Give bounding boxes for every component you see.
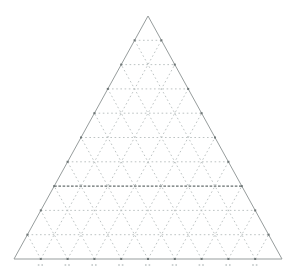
ternary-plot-figure xyxy=(0,0,296,277)
edge-tick-left-6 xyxy=(67,161,69,163)
edge-tick-left-9 xyxy=(26,234,28,236)
edge-tick-right-3 xyxy=(187,88,189,90)
base-tick-label-mark-9 xyxy=(252,264,254,266)
edge-tick-right-1 xyxy=(160,39,162,41)
edge-tick-bottom-2 xyxy=(67,258,69,260)
edge-tick-right-6 xyxy=(227,161,229,163)
edge-tick-left-4 xyxy=(93,112,95,114)
base-tick-label-mark-3b xyxy=(95,264,97,266)
edge-tick-bottom-3 xyxy=(93,258,95,260)
edge-tick-left-7 xyxy=(53,185,55,187)
base-tick-label-mark-8 xyxy=(225,264,227,266)
grid-line-left-parallel-7 xyxy=(202,186,242,259)
edge-tick-left-3 xyxy=(107,88,109,90)
base-tick-label-mark-5 xyxy=(145,264,147,266)
grid-line-right-parallel-9 xyxy=(135,40,256,259)
edge-tick-left-2 xyxy=(120,64,122,66)
edge-tick-bottom-1 xyxy=(40,258,42,260)
edge-tick-bottom-9 xyxy=(254,258,256,260)
grid-line-right-parallel-7 xyxy=(108,89,202,259)
grid-line-right-parallel-3 xyxy=(54,186,94,259)
grid-line-right-parallel-1 xyxy=(27,235,40,259)
grid-line-right-parallel-5 xyxy=(81,138,148,260)
edge-tick-right-8 xyxy=(254,209,256,211)
base-tick-label-mark-5b xyxy=(149,264,151,266)
edge-tick-bottom-6 xyxy=(174,258,176,260)
base-tick-label-mark-2 xyxy=(65,264,67,266)
edge-tick-right-5 xyxy=(214,137,216,139)
edge-tick-bottom-7 xyxy=(201,258,203,260)
edge-tick-right-2 xyxy=(174,64,176,66)
edge-tick-right-4 xyxy=(201,112,203,114)
grid-line-left-parallel-9 xyxy=(255,235,268,259)
triangle-outline xyxy=(14,16,282,259)
base-tick-label-mark-7 xyxy=(199,264,201,266)
base-tick-label-mark-8b xyxy=(229,264,231,266)
base-tick-label-mark-9b xyxy=(256,264,258,266)
base-tick-label-mark-7b xyxy=(202,264,204,266)
edge-tick-bottom-4 xyxy=(120,258,122,260)
edge-tick-left-5 xyxy=(80,137,82,139)
edge-tick-right-9 xyxy=(268,234,270,236)
grid-line-left-parallel-5 xyxy=(148,138,215,260)
ternary-plot xyxy=(0,0,296,277)
base-tick-label-mark-6b xyxy=(175,264,177,266)
edge-tick-right-7 xyxy=(241,185,243,187)
edge-tick-left-1 xyxy=(134,39,136,41)
edge-tick-bottom-5 xyxy=(147,258,149,260)
base-tick-label-mark-4 xyxy=(118,264,120,266)
edge-tick-bottom-8 xyxy=(227,258,229,260)
base-tick-label-mark-4b xyxy=(122,264,124,266)
base-tick-label-mark-1b xyxy=(41,264,43,266)
grid-line-left-parallel-1 xyxy=(41,40,162,259)
base-tick-label-mark-3 xyxy=(91,264,93,266)
base-tick-label-mark-1 xyxy=(38,264,40,266)
grid-line-left-parallel-3 xyxy=(94,89,188,259)
base-tick-label-mark-6 xyxy=(172,264,174,266)
base-tick-label-mark-2b xyxy=(68,264,70,266)
edge-tick-left-8 xyxy=(40,209,42,211)
